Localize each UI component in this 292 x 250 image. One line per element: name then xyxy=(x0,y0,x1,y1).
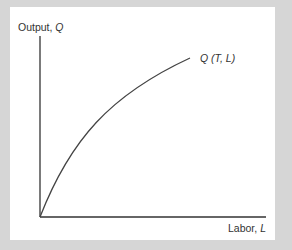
curve-label: Q (T, L) xyxy=(200,52,235,64)
x-axis-label: Labor, L xyxy=(228,222,266,234)
y-axis-label: Output, Q xyxy=(18,21,64,33)
production-curve xyxy=(40,58,190,217)
production-function-chart xyxy=(0,0,292,250)
